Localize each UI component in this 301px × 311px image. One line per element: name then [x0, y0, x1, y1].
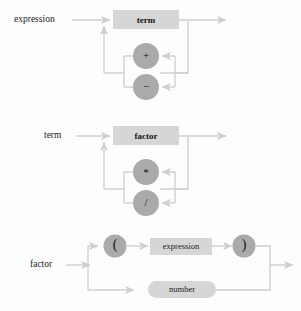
token-close-paren-label: ) [242, 237, 247, 253]
node-expression-label: expression [163, 241, 200, 251]
node-factor-label: factor [135, 131, 158, 141]
token-open-paren-label: ( [113, 237, 118, 253]
entry-label-factor: factor [30, 259, 53, 269]
operator-plus-label: + [143, 49, 149, 61]
syntax-diagram-figure: expression term + − term [0, 0, 301, 311]
operator-minus-label: − [143, 80, 149, 92]
entry-label-expression: expression [14, 14, 55, 24]
node-number-label: number [169, 284, 195, 294]
entry-label-term: term [44, 130, 62, 140]
operator-star-label: * [143, 166, 149, 178]
node-term-label: term [137, 15, 156, 25]
